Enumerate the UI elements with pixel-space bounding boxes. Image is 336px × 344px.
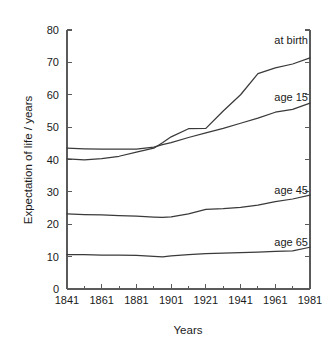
x-axis-title: Years	[174, 324, 203, 336]
x-tick-label-1981: 1981	[298, 294, 322, 306]
x-tick-label-1861: 1861	[89, 294, 113, 306]
y-tick-label-60: 60	[47, 89, 59, 101]
x-tick-label-1841: 1841	[55, 294, 79, 306]
chart-background	[0, 0, 336, 344]
y-tick-label-10: 10	[47, 251, 59, 263]
chart-figure: 01020304050607080 1841186118811901192119…	[0, 0, 336, 344]
y-tick-label-30: 30	[47, 186, 59, 198]
y-tick-label-20: 20	[47, 218, 59, 230]
y-tick-label-50: 50	[47, 121, 59, 133]
y-axis-tick-labels: 01020304050607080	[47, 24, 59, 295]
life-expectancy-line-chart: 01020304050607080 1841186118811901192119…	[0, 0, 336, 344]
series-label-age-65: age 65	[274, 236, 308, 248]
series-label-at-birth: at birth	[274, 34, 308, 46]
x-tick-label-1881: 1881	[124, 294, 148, 306]
series-label-age-15: age 15	[274, 91, 308, 103]
y-tick-label-40: 40	[47, 154, 59, 166]
series-label-age-45: age 45	[274, 184, 308, 196]
x-tick-label-1921: 1921	[194, 294, 218, 306]
y-axis-title: Expectation of life / years	[22, 96, 34, 225]
x-tick-label-1941: 1941	[228, 294, 252, 306]
x-tick-label-1901: 1901	[159, 294, 183, 306]
y-tick-label-70: 70	[47, 56, 59, 68]
x-tick-label-1961: 1961	[263, 294, 287, 306]
y-tick-label-80: 80	[47, 24, 59, 36]
